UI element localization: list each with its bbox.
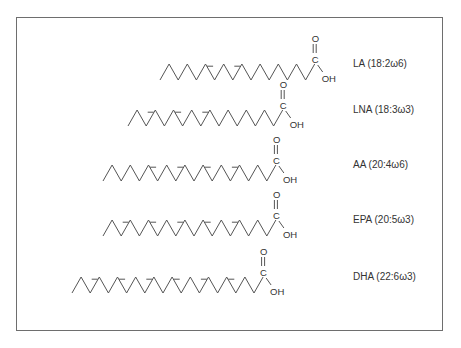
hydroxyl-group: OH bbox=[290, 119, 304, 130]
molecule-aa: COOH bbox=[103, 134, 297, 185]
hydroxyl-group: OH bbox=[283, 229, 297, 240]
label-aa: AA (20:4ω6) bbox=[353, 159, 408, 170]
label-dha: DHA (22:6ω3) bbox=[353, 271, 416, 282]
oxygen-atom: O bbox=[273, 134, 280, 145]
molecule-lna: COOH bbox=[128, 79, 304, 130]
carbon-atom: C bbox=[273, 155, 280, 166]
fatty-acid-structures: COOHCOOHCOOHCOOHCOOH bbox=[0, 0, 461, 348]
oxygen-atom: O bbox=[273, 189, 280, 200]
hydroxyl-group: OH bbox=[283, 174, 297, 185]
label-epa: EPA (20:5ω3) bbox=[353, 214, 414, 225]
carbon-atom: C bbox=[273, 210, 280, 221]
carbon-atom: C bbox=[260, 267, 267, 278]
molecule-epa: COOH bbox=[103, 189, 297, 240]
oxygen-atom: O bbox=[312, 33, 319, 44]
label-lna: LNA (18:3ω3) bbox=[353, 104, 414, 115]
label-la: LA (18:2ω6) bbox=[353, 58, 407, 69]
oxygen-atom: O bbox=[260, 246, 267, 257]
hydroxyl-group: OH bbox=[322, 73, 336, 84]
oxygen-atom: O bbox=[280, 79, 287, 90]
carbon-atom: C bbox=[280, 100, 287, 111]
carbon-atom: C bbox=[312, 54, 319, 65]
hydroxyl-group: OH bbox=[270, 286, 284, 297]
molecule-la: COOH bbox=[160, 33, 336, 84]
molecule-dha: COOH bbox=[72, 246, 284, 297]
